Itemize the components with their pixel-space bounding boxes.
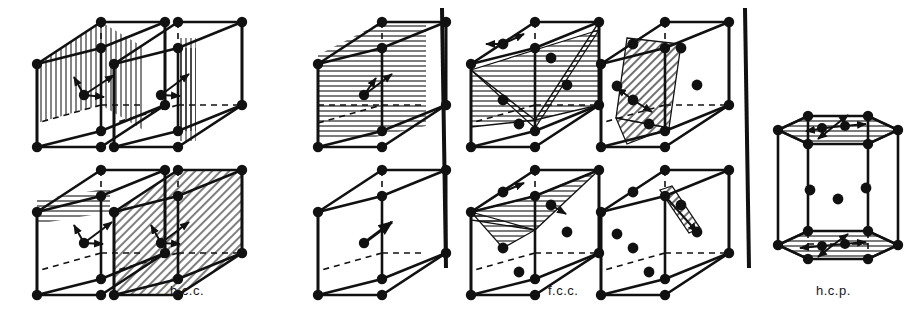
label-bcc: b.c.c. (170, 283, 204, 298)
hcp-cell (773, 111, 903, 264)
fcc-cell-1 (466, 17, 604, 152)
crystal-structures-svg (0, 0, 921, 319)
slip-direction-arrows (364, 222, 392, 243)
label-fcc: f.c.c. (548, 283, 578, 298)
cube-hidden-edge (37, 253, 101, 271)
bcc-cell-6 (313, 165, 451, 300)
cube-hidden-edge (471, 253, 535, 271)
crystal-slip-systems-figure: b.c.c. f.c.c. h.c.p. (0, 0, 921, 319)
divider-fcc-hcp (745, 8, 749, 268)
fcc-cell-4 (596, 165, 734, 300)
bcc-cell-3 (313, 17, 451, 152)
bcc-cell-1 (32, 17, 170, 152)
midplane-atoms (805, 183, 872, 205)
slip-plane-112-a (318, 22, 426, 140)
cube-hidden-edge (601, 253, 665, 271)
slip-plane-110-a (37, 22, 145, 131)
label-hcp: h.c.p. (816, 283, 851, 298)
fcc-cell-3 (466, 165, 604, 300)
cube-hidden-edge (318, 253, 382, 271)
fcc-cell-2 (596, 17, 734, 152)
